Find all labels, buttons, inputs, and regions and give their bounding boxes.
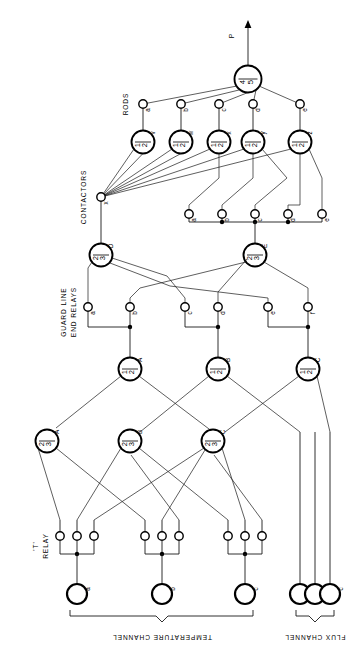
flux-sensor-c[interactable]: c <box>320 584 344 604</box>
gate-rod-x[interactable]: 1 2 x <box>208 131 233 154</box>
gate-mid-B-name: B <box>224 358 231 362</box>
t-relay-contact[interactable] <box>56 532 64 540</box>
gate-rod-w-name: w <box>187 130 194 136</box>
gate-rod-x-denominator: 2 <box>216 143 225 147</box>
section-label-t-relay-line1: 'T' <box>32 541 39 550</box>
guard-relay-node-e[interactable]: e <box>264 303 308 327</box>
flux-channel-row: a b c FLUX CHANNEL <box>285 584 346 641</box>
output-label-P: P <box>228 33 235 38</box>
contactor-node-e[interactable]: e <box>318 210 330 222</box>
gate-rod-y-name: y <box>259 131 267 135</box>
t-relay-contact[interactable] <box>241 532 249 540</box>
output-arrow-group: P <box>228 20 251 66</box>
gate-rod-v-name: v <box>149 131 156 135</box>
guard-relays-row: GUARD LINE END RELAYS a b c d <box>60 287 316 357</box>
temp-sensor-a[interactable]: a <box>67 584 91 604</box>
gate-rod-z-denominator: 2 <box>297 143 306 147</box>
section-label-flux-channel: FLUX CHANNEL <box>285 634 346 641</box>
temp-sensor-c-label: c <box>252 587 259 590</box>
guard-gates-to-relays <box>88 258 308 303</box>
t-relay-contact[interactable] <box>175 532 183 540</box>
section-label-end-relays: END RELAYS <box>70 287 77 337</box>
guard-relay-a-label: a <box>89 311 96 315</box>
contactor-node-a[interactable]: a <box>185 210 197 222</box>
gate-low-A-denominator: 3 <box>44 442 53 446</box>
gate-rod-x-name: x <box>225 131 232 135</box>
guard-relay-b-label: b <box>131 311 138 315</box>
rod-node-d[interactable]: d <box>249 100 261 130</box>
gate-top-4of5[interactable]: 4 5 <box>235 66 262 93</box>
gate-mid-B-denominator: 2 <box>215 370 224 374</box>
t-relay-contact[interactable] <box>73 532 81 540</box>
section-label-rods: RODS <box>122 93 129 116</box>
gate-mid-C-denominator: 2 <box>305 370 314 374</box>
gate-rod-y-denominator: 2 <box>250 143 259 147</box>
rod-node-c-label: c <box>220 108 227 111</box>
guard-relay-node-f[interactable]: f <box>304 303 316 357</box>
low-gates-to-t-relay <box>38 448 262 532</box>
guard-relay-node-c[interactable]: c <box>181 303 218 327</box>
rod-node-e[interactable]: e <box>296 100 308 130</box>
contactor-node-b-label: b <box>223 218 230 222</box>
gate-mid-A-denominator: 2 <box>127 370 136 374</box>
gate-mid-A[interactable]: 1 2 A <box>119 357 144 380</box>
guard-relay-node-d[interactable]: d <box>214 303 226 357</box>
guard-relay-node-b[interactable]: b <box>126 303 138 357</box>
temp-sensor-a-label: a <box>84 587 91 591</box>
section-label-temperature-channel: TEMPERATURE CHANNEL <box>112 634 212 641</box>
logic-diagram-svg: P 4 5 RODS a b c <box>0 0 355 645</box>
contactor-node-a-label: a <box>190 218 197 222</box>
temperature-channel-row: a b c TEMPERATURE CHANNEL <box>67 584 259 641</box>
t-relay-contact-group-c[interactable] <box>224 532 266 584</box>
output-arrowhead <box>245 20 252 28</box>
mid-to-low-gates <box>56 376 330 432</box>
section-label-contactors: CONTACTORS <box>80 170 87 225</box>
rod-node-a-label: a <box>144 108 151 112</box>
gate-mid-A-name: A <box>136 357 143 362</box>
temp-sensor-c[interactable]: c <box>235 584 259 604</box>
t-relay-contact[interactable] <box>258 532 266 540</box>
contactor-junction[interactable]: x <box>97 193 109 243</box>
rod-node-c[interactable]: c <box>215 100 227 130</box>
gate-low-A[interactable]: 2 3 A <box>36 429 61 452</box>
guard-relay-d-label: d <box>219 311 226 315</box>
contactors-row: CONTACTORS x a b c d <box>80 170 330 243</box>
gate-low-C-denominator: 3 <box>210 442 219 446</box>
rod-node-b[interactable]: b <box>177 100 189 130</box>
gate-rod-z-name: z <box>306 131 313 134</box>
gate-denominator: 5 <box>246 80 255 84</box>
guard-relay-e-label: e <box>269 311 276 315</box>
temp-sensor-b-label: b <box>169 587 176 591</box>
gate-low-B[interactable]: 2 3 B <box>119 430 144 453</box>
t-relay-contact[interactable] <box>141 532 149 540</box>
section-label-t-relay-line2: RELAY <box>42 533 49 559</box>
section-label-guard-line: GUARD LINE <box>60 287 67 336</box>
rod-node-a[interactable]: a <box>139 100 151 130</box>
guard-relay-node-a[interactable]: a <box>84 303 130 327</box>
diagram-canvas: P 4 5 RODS a b c <box>0 0 355 645</box>
contactor-node-c-label: c <box>256 218 263 221</box>
contactor-node-d-label: d <box>289 218 296 222</box>
t-relay-contact[interactable] <box>90 532 98 540</box>
low-gates-row: 2 3 A 2 3 B 2 3 C <box>36 429 227 452</box>
gate-mid-B[interactable]: 1 2 B <box>207 358 232 381</box>
gate-rod-v-denominator: 2 <box>140 143 149 147</box>
gate-low-C-name: C <box>219 429 226 434</box>
flux-channel-wires <box>300 432 330 592</box>
temp-sensor-b[interactable]: b <box>152 584 176 604</box>
gate-rod-w[interactable]: 1 2 w <box>170 130 195 153</box>
contactor-node-e-label: e <box>323 218 330 222</box>
gate-low-B-denominator: 3 <box>127 442 136 446</box>
temperature-channel-brace <box>70 610 253 622</box>
flux-sensor-c-label: c <box>337 587 344 590</box>
gate-rod-v[interactable]: 1 2 v <box>132 131 157 154</box>
rod-node-b-label: b <box>182 108 189 112</box>
t-relay-contact-group-a[interactable] <box>56 532 98 584</box>
rod-node-e-label: e <box>301 108 308 112</box>
gate-low-B-name: B <box>136 430 143 434</box>
gate-guard-E[interactable]: 2 3 E <box>244 244 269 267</box>
guard-relay-c-label: c <box>186 311 193 314</box>
t-relay-contact-group-b[interactable] <box>141 532 183 584</box>
t-relay-contact[interactable] <box>158 532 166 540</box>
t-relay-contact[interactable] <box>224 532 232 540</box>
